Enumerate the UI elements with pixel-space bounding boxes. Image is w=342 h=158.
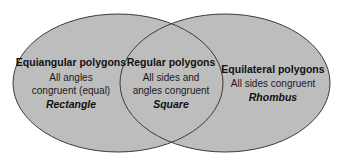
left-set-description-line-1: All angles (49, 72, 92, 83)
right-set-description-line-1: All sides congruent (231, 78, 316, 89)
intersection-title: Regular polygons (127, 56, 216, 68)
left-set-example: Rectangle (46, 98, 96, 110)
right-set-example: Rhombus (249, 91, 298, 103)
left-set-description-line-2: congruent (equal) (32, 85, 110, 96)
right-set-title: Equilateral polygons (221, 63, 324, 75)
venn-diagram: Equiangular polygons All angles congruen… (0, 0, 342, 158)
intersection-description-line-1: All sides and (143, 72, 200, 83)
left-set-title: Equiangular polygons (16, 56, 126, 68)
intersection-description-line-2: angles congruent (133, 85, 210, 96)
intersection-example: Square (153, 98, 189, 110)
